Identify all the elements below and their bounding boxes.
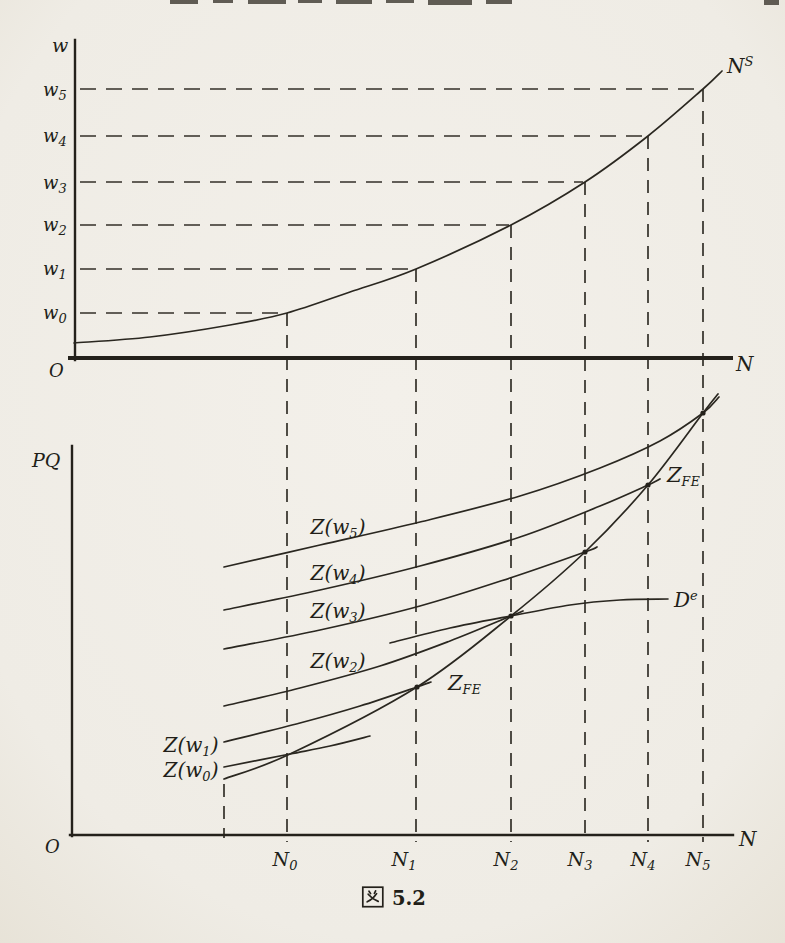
top-origin-label: O <box>49 360 64 381</box>
curve-intersection-dot <box>700 410 705 415</box>
book-page: w N O NS w5 w4 w3 w2 w1 w0 PQ N O Z(w5) … <box>0 0 785 943</box>
curve-intersection-dot <box>582 549 587 554</box>
label-Z-w5: Z(w5) <box>310 515 366 541</box>
bottom-origin-label: O <box>45 836 60 857</box>
label-Z-w0: Z(w0) <box>163 758 219 784</box>
curve-intersection-dot <box>414 684 419 689</box>
bottom-y-axis-label: PQ <box>31 449 60 471</box>
top-y-axis-label: w <box>52 34 68 56</box>
figure-5-2-scan: w N O NS w5 w4 w3 w2 w1 w0 PQ N O Z(w5) … <box>0 0 785 943</box>
label-Z-w2: Z(w2) <box>310 649 366 675</box>
label-Z-w1: Z(w1) <box>163 733 219 759</box>
bottom-x-axis-label: N <box>738 827 758 851</box>
caption-number: 5.2 <box>392 887 426 910</box>
label-Z-w3: Z(w3) <box>310 599 366 625</box>
top-x-axis-label: N <box>735 352 755 376</box>
curve-intersection-dot <box>508 613 513 618</box>
curve-intersection-dot <box>645 482 650 487</box>
label-Z-w4: Z(w4) <box>310 561 366 587</box>
